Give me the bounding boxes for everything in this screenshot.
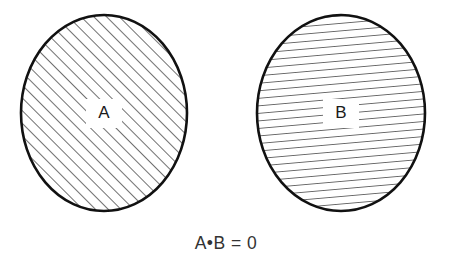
set-a-label: A (98, 103, 110, 122)
set-b-label: B (335, 103, 346, 122)
venn-diagram-canvas: A B A•B = 0 (0, 0, 450, 267)
venn-diagram-figure: A B A•B = 0 (0, 0, 450, 267)
intersection-caption: A•B = 0 (195, 233, 258, 253)
